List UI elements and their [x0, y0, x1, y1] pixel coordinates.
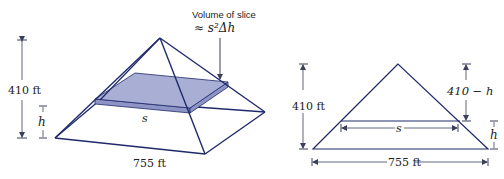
base-label-right: 755 ft: [388, 156, 422, 169]
annotation-formula: ≈ s²Δh: [194, 21, 235, 35]
s-label-right: s: [396, 122, 402, 135]
cross-section-triangle: [313, 64, 488, 149]
height-label-right: 410 ft: [292, 100, 326, 113]
top-label-right: 410 − h: [446, 84, 493, 98]
height-dimension-left: 410 ft: [8, 40, 42, 138]
pyramid-diagram: 410 ft h s 755 ft Volume of slice ≈ s²Δh…: [0, 0, 504, 179]
pyramid-3d: [55, 38, 265, 154]
slice: [95, 73, 228, 113]
s-dimension: s: [341, 122, 458, 135]
s-label: s: [142, 112, 148, 125]
h-dimension-left: h: [38, 106, 47, 138]
h-label-right: h: [490, 128, 498, 142]
height-dimension-right: 410 ft: [292, 64, 326, 149]
annotation-title: Volume of slice: [192, 9, 256, 20]
h-label: h: [38, 115, 46, 129]
top-dimension-right: 410 − h: [446, 64, 493, 121]
base-right-edge: [205, 112, 265, 154]
base-label: 755 ft: [133, 157, 167, 170]
base-dimension-right: 755 ft: [312, 156, 488, 169]
height-label: 410 ft: [8, 84, 42, 97]
h-dimension-right: h: [490, 121, 498, 149]
base-front-edge: [55, 138, 205, 154]
